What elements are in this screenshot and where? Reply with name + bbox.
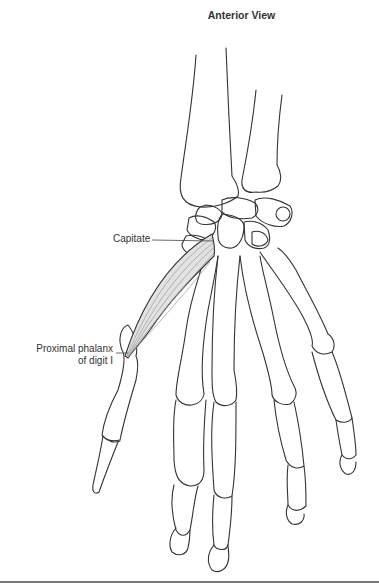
bottom-divider <box>0 581 379 583</box>
radius-bone <box>180 48 238 207</box>
digit-iv-bones <box>240 256 306 524</box>
muscle-belly <box>125 234 214 358</box>
capitate-label: Capitate <box>113 233 150 245</box>
digit-iii-bones <box>208 256 240 572</box>
proximal-phalanx-label-line2: of digit I <box>18 355 113 367</box>
proximal-phalanx-label-line1: Proximal phalanx <box>18 343 113 355</box>
digit-v-bones <box>260 248 356 474</box>
proximal-phalanx-label: Proximal phalanx of digit I <box>18 343 113 367</box>
hand-skeleton-illustration <box>0 0 379 588</box>
digit-ii-bones <box>170 256 218 555</box>
ulna-bone <box>242 90 282 192</box>
